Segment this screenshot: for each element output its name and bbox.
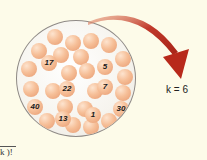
ball [61,65,77,81]
ball [39,113,55,129]
ball-30: 30 [113,101,129,117]
ball-7: 7 [97,79,113,95]
ball-5: 5 [97,59,113,75]
ball-17: 17 [41,55,57,71]
ball-40: 40 [27,99,43,115]
ball-1: 1 [85,107,101,123]
ball [101,113,117,129]
k-label: k = 6 [166,84,188,95]
ball [21,61,37,77]
ball-22: 22 [59,81,75,97]
draw-arrow-icon [85,10,205,90]
ball-13: 13 [55,111,71,127]
formula-fragment: k )! [0,147,13,157]
ball [47,29,63,45]
ball [23,81,39,97]
